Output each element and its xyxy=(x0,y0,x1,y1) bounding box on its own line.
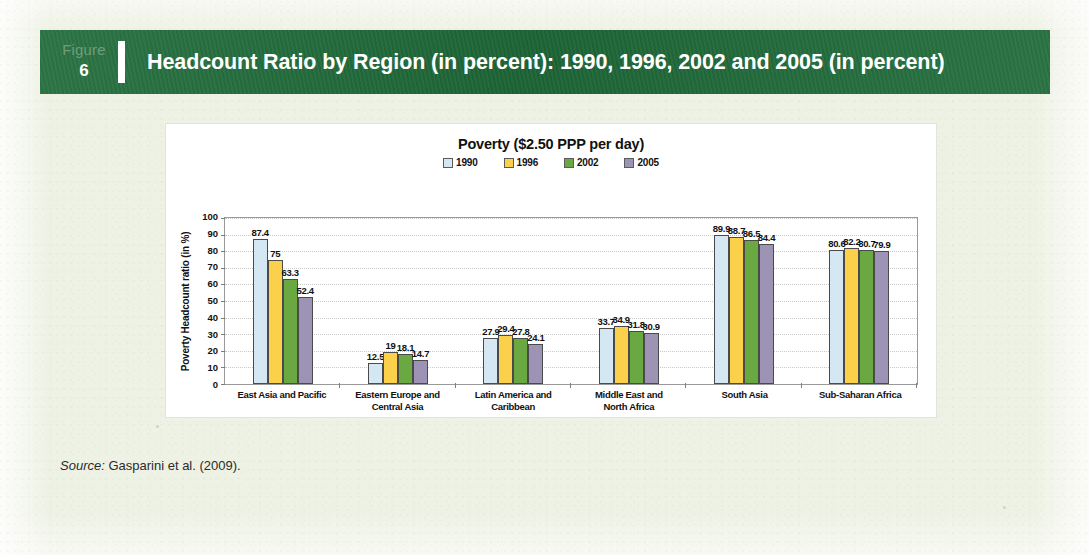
bar[interactable]: 84.4 xyxy=(759,244,774,384)
bar[interactable]: 24.1 xyxy=(528,344,543,384)
bar-value-label: 12.5 xyxy=(367,351,384,362)
source-note: Source: Gasparini et al. (2009). xyxy=(60,458,241,473)
x-label-3: Latin America andCaribbean xyxy=(455,389,571,417)
scan-speck xyxy=(156,425,159,428)
y-tick-100: 100 xyxy=(202,212,218,222)
y-axis-ticklet xyxy=(221,384,225,385)
bar[interactable]: 80.6 xyxy=(829,250,844,384)
header-divider-rule xyxy=(118,41,125,83)
bar-value-label: 19 xyxy=(386,340,396,351)
bar-value-label: 84.4 xyxy=(758,232,775,243)
y-tick-20: 20 xyxy=(207,347,218,357)
bar-groups: 87.47563.352.412.51918.114.727.929.427.8… xyxy=(225,218,917,384)
y-tick-0: 0 xyxy=(213,380,218,390)
y-tick-80: 80 xyxy=(207,246,218,256)
y-tick-10: 10 xyxy=(207,363,218,373)
figure-word-label: Figure xyxy=(62,42,106,58)
bar[interactable]: 86.5 xyxy=(744,240,759,384)
bar-value-label: 75 xyxy=(270,248,280,259)
y-axis-title: Poverty Headcount ratio (in %) xyxy=(178,221,194,381)
legend-label: 1990 xyxy=(456,157,477,168)
bar[interactable]: 27.8 xyxy=(513,338,528,384)
legend-label: 1996 xyxy=(517,157,538,168)
bar[interactable]: 19 xyxy=(383,352,398,384)
x-label-line: Eastern Europe and xyxy=(340,389,456,401)
bar[interactable]: 29.4 xyxy=(498,335,513,384)
x-label-line: East Asia and Pacific xyxy=(224,389,340,401)
bar[interactable]: 80.7 xyxy=(859,250,874,384)
bar-value-label: 14.7 xyxy=(412,348,429,359)
chart-title: Poverty ($2.50 PPP per day) xyxy=(166,136,936,152)
bar-value-label: 30.9 xyxy=(642,321,659,332)
bar[interactable]: 88.7 xyxy=(729,237,744,384)
bar-value-label: 79.9 xyxy=(873,239,890,250)
legend-swatch-icon xyxy=(504,158,514,168)
y-axis-title-text: Poverty Headcount ratio (in %) xyxy=(181,231,192,371)
bar[interactable]: 63.3 xyxy=(283,279,298,384)
legend-item-2005[interactable]: 2005 xyxy=(624,157,658,168)
bar[interactable]: 75 xyxy=(268,260,283,385)
legend-item-1996[interactable]: 1996 xyxy=(504,157,538,168)
x-axis-ticklet xyxy=(916,383,917,388)
legend-swatch-icon xyxy=(624,158,634,168)
bar-group: 33.734.931.830.9 xyxy=(571,218,686,384)
figure-number: 6 xyxy=(79,60,88,82)
plot-wrapper: Poverty Headcount ratio (in %) 100908070… xyxy=(166,181,936,417)
bar[interactable]: 89.9 xyxy=(714,235,729,384)
bar[interactable]: 12.5 xyxy=(368,363,383,384)
bar-group: 87.47563.352.4 xyxy=(225,218,340,384)
x-label-line: Latin America and xyxy=(455,389,571,401)
x-label-line: Central Asia xyxy=(340,401,456,413)
bar[interactable]: 18.1 xyxy=(398,354,413,384)
source-text: Gasparini et al. (2009). xyxy=(105,458,241,473)
bar-group: 12.51918.114.7 xyxy=(340,218,455,384)
legend-item-1990[interactable]: 1990 xyxy=(443,157,477,168)
bar-value-label: 52.4 xyxy=(297,285,314,296)
bar-group: 89.988.786.584.4 xyxy=(686,218,801,384)
x-label-4: Middle East andNorth Africa xyxy=(571,389,687,417)
legend-swatch-icon xyxy=(443,158,453,168)
x-label-2: Eastern Europe andCentral Asia xyxy=(340,389,456,417)
legend-label: 2005 xyxy=(637,157,658,168)
x-label-1: East Asia and Pacific xyxy=(224,389,340,417)
bar-value-label: 87.4 xyxy=(252,227,269,238)
x-label-6: Sub-Saharan Africa xyxy=(802,389,918,417)
bar[interactable]: 30.9 xyxy=(644,333,659,384)
bar-value-label: 63.3 xyxy=(282,267,299,278)
bar[interactable]: 34.9 xyxy=(614,326,629,384)
bar[interactable]: 52.4 xyxy=(298,297,313,384)
chart-legend: 1990199620022005 xyxy=(166,157,936,168)
bar[interactable]: 82.2 xyxy=(844,248,859,384)
legend-swatch-icon xyxy=(564,158,574,168)
bar[interactable]: 31.8 xyxy=(629,331,644,384)
bar-group: 80.682.280.779.9 xyxy=(802,218,917,384)
x-label-line: Caribbean xyxy=(455,401,571,413)
y-tick-60: 60 xyxy=(207,279,218,289)
bar-group: 27.929.427.824.1 xyxy=(456,218,571,384)
bar[interactable]: 87.4 xyxy=(253,239,268,384)
bar[interactable]: 33.7 xyxy=(599,328,614,384)
figure-header-band: Figure 6 Headcount Ratio by Region (in p… xyxy=(40,30,1050,94)
x-label-line: South Asia xyxy=(687,389,803,401)
x-axis-category-labels: East Asia and PacificEastern Europe andC… xyxy=(224,389,918,417)
bar-value-label: 24.1 xyxy=(527,332,544,343)
legend-item-2002[interactable]: 2002 xyxy=(564,157,598,168)
bar[interactable]: 14.7 xyxy=(413,360,428,384)
x-label-line: North Africa xyxy=(571,401,687,413)
bar[interactable]: 79.9 xyxy=(874,251,889,384)
y-tick-70: 70 xyxy=(207,263,218,273)
figure-number-block: Figure 6 xyxy=(40,42,118,82)
legend-label: 2002 xyxy=(577,157,598,168)
x-label-5: South Asia xyxy=(687,389,803,417)
y-tick-90: 90 xyxy=(207,229,218,239)
y-axis-tick-labels: 1009080706050403020100 xyxy=(196,217,222,385)
x-label-line: Middle East and xyxy=(571,389,687,401)
scan-speck xyxy=(1003,506,1006,509)
source-label: Source: xyxy=(60,458,105,473)
x-label-line: Sub-Saharan Africa xyxy=(802,389,918,401)
y-tick-30: 30 xyxy=(207,330,218,340)
bar[interactable]: 27.9 xyxy=(483,338,498,384)
y-tick-50: 50 xyxy=(207,296,218,306)
chart-panel: Poverty ($2.50 PPP per day) 199019962002… xyxy=(166,124,936,417)
plot-area: 87.47563.352.412.51918.114.727.929.427.8… xyxy=(224,217,918,385)
